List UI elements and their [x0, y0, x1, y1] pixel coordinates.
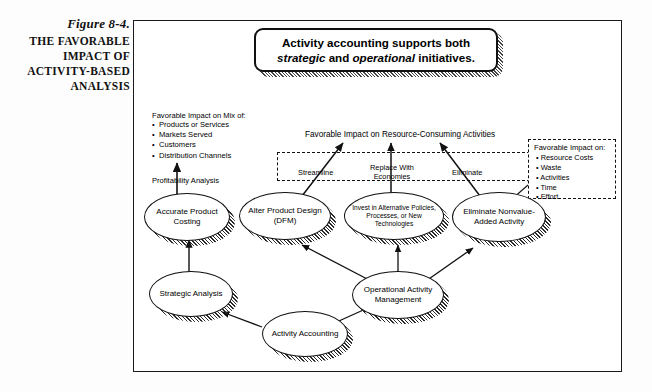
callout-text: Activity accounting supports both strate… [277, 35, 475, 65]
node-eliminate-nonvalue-added[interactable]: Eliminate Nonvalue-Added Activity [452, 192, 546, 242]
node-invest-in-alternative[interactable]: Invest in Alternative Policies, Processe… [344, 192, 444, 240]
figure-caption: Figure 8-4. THE FAVORABLE IMPACT OF ACTI… [8, 16, 130, 94]
arrow-label-replace-with-economies: Replace With Economies [370, 163, 414, 182]
node-body: Operational Activity Management [352, 271, 444, 319]
node-label: Accurate Product Costing [145, 207, 229, 227]
node-operational-activity-management[interactable]: Operational Activity Management [352, 271, 444, 319]
figure-canvas: Figure 8-4. THE FAVORABLE IMPACT OF ACTI… [0, 0, 652, 392]
bullet-dot: • [536, 183, 539, 192]
node-label: Operational Activity Management [353, 285, 443, 305]
bullet-dot: • [152, 140, 159, 150]
left-annotation-item-label: Markets Served [159, 130, 212, 139]
callout-line-2-tail: initiatives. [415, 51, 475, 64]
callout-line-1: Activity accounting supports both [282, 36, 470, 49]
right-annotation-item: • Waste [536, 163, 561, 172]
arrow-label-streamline: Streamline [298, 168, 333, 177]
bullet-dot: • [536, 173, 539, 182]
left-annotation-item: •Customers [152, 140, 246, 150]
bullet-dot: • [152, 151, 159, 161]
left-annotation-heading: Favorable Impact on Mix of: [152, 111, 246, 120]
right-annotation-item: • Resource Costs [536, 153, 593, 162]
node-accurate-product-costing[interactable]: Accurate Product Costing [144, 193, 230, 241]
node-label: Invest in Alternative Policies, Processe… [345, 204, 443, 229]
left-annotation-item-label: Distribution Channels [159, 151, 231, 160]
figure-number: Figure 8-4. [8, 16, 130, 32]
node-label: Activity Accounting [266, 329, 345, 339]
bullet-dot: • [152, 130, 159, 140]
resource-consuming-activities-label: Favorable Impact on Resource-Consuming A… [305, 130, 495, 139]
right-annotation-item: • Activities [536, 173, 569, 182]
node-label: Eliminate Nonvalue-Added Activity [453, 207, 545, 227]
arrow-label-replace-line-2: Economies [374, 172, 411, 181]
figure-title-line-2: IMPACT OF [8, 49, 130, 64]
left-annotation-item: •Products or Services [152, 120, 246, 130]
node-body: Strategic Analysis [149, 271, 233, 317]
right-annotation-item-label: Waste [541, 163, 562, 172]
left-annotation-item: •Markets Served [152, 130, 246, 140]
node-label: Strategic Analysis [153, 289, 228, 299]
left-annotation-item-label: Customers [159, 140, 196, 149]
bullet-dot: • [536, 153, 539, 162]
node-body: Accurate Product Costing [144, 193, 230, 241]
callout-conjunction: and [325, 51, 352, 64]
callout-emphasis-strategic: strategic [277, 51, 325, 64]
right-annotation-heading: Favorable Impact on: [534, 143, 605, 152]
right-annotation-box: Favorable Impact on: • Resource Costs • … [528, 139, 616, 199]
right-annotation-item-label: Resource Costs [541, 153, 594, 162]
right-annotation-item-label: Activities [540, 173, 569, 182]
right-annotation-item: • Time [536, 183, 557, 192]
node-body: Invest in Alternative Policies, Processe… [344, 192, 444, 240]
figure-title-line-3: ACTIVITY-BASED [8, 64, 130, 79]
node-activity-accounting[interactable]: Activity Accounting [262, 311, 348, 357]
figure-title-line-4: ANALYSIS [8, 79, 130, 94]
bullet-dot: • [536, 163, 539, 172]
node-body: Activity Accounting [262, 311, 348, 357]
node-strategic-analysis[interactable]: Strategic Analysis [149, 271, 233, 317]
left-annotation-item: •Distribution Channels [152, 151, 246, 161]
node-label: Alter Product Design (DFM) [240, 206, 330, 226]
profitability-analysis-label: Profitability Analysis [152, 176, 219, 185]
callout-emphasis-operational: operational [352, 51, 415, 64]
node-body: Eliminate Nonvalue-Added Activity [452, 192, 546, 242]
node-alter-product-design[interactable]: Alter Product Design (DFM) [239, 192, 331, 240]
headline-callout: Activity accounting supports both strate… [254, 28, 498, 72]
callout-box: Activity accounting supports both strate… [254, 28, 498, 72]
bullet-dot: • [152, 120, 159, 130]
arrow-label-eliminate: Eliminate [452, 168, 482, 177]
arrow-label-replace-line-1: Replace With [370, 163, 414, 172]
left-annotation: Favorable Impact on Mix of: •Products or… [152, 111, 246, 161]
figure-title-line-1: THE FAVORABLE [8, 34, 130, 49]
right-annotation-item-label: Time [541, 183, 557, 192]
left-annotation-item-label: Products or Services [159, 120, 229, 129]
node-body: Alter Product Design (DFM) [239, 192, 331, 240]
